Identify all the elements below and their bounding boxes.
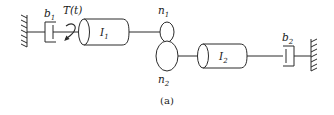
label-damper-b1: b1 — [44, 7, 55, 22]
wall-left — [21, 15, 27, 47]
figure-container: b1 T(t) I1 n1 n2 — [0, 0, 334, 115]
label-damper-b2: b2 — [282, 31, 294, 46]
torque-arrow — [64, 24, 78, 41]
damper-b2 — [283, 46, 311, 66]
gear-n1 — [160, 22, 174, 42]
label-gear-n1: n1 — [158, 4, 169, 19]
wall-right — [311, 39, 317, 71]
gear-n2 — [156, 41, 178, 71]
label-torque: T(t) — [63, 4, 82, 16]
label-gear-n2: n2 — [158, 73, 170, 88]
mechanical-system-diagram: b1 T(t) I1 n1 n2 — [0, 0, 334, 115]
figure-caption: (a) — [160, 95, 174, 106]
damper-b1 — [45, 22, 66, 42]
